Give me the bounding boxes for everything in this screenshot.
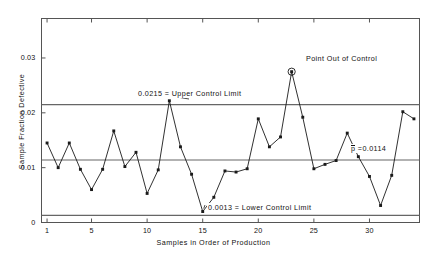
p-bar-symbol: p <box>351 144 355 153</box>
data-point-marker[interactable] <box>379 204 382 207</box>
center-line-annotation-label: p =0.0114 <box>350 144 387 153</box>
x-tick-label: 5 <box>80 226 104 235</box>
data-point-marker[interactable] <box>235 171 238 174</box>
y-axis-title: Sample Fraction Defective <box>17 47 26 197</box>
data-point-marker[interactable] <box>357 155 360 158</box>
data-point-marker[interactable] <box>268 145 271 148</box>
data-point-marker[interactable] <box>201 210 204 213</box>
data-point-marker[interactable] <box>179 145 182 148</box>
x-tick-label: 1 <box>35 226 59 235</box>
x-tick-label: 25 <box>302 226 326 235</box>
data-point-marker[interactable] <box>324 163 327 166</box>
data-point-marker[interactable] <box>79 168 82 171</box>
data-point-marker[interactable] <box>223 170 226 173</box>
x-tick-label: 15 <box>191 226 215 235</box>
y-tick-label: 0.02 <box>4 108 36 117</box>
data-point-marker[interactable] <box>190 173 193 176</box>
x-tick-label: 10 <box>135 226 159 235</box>
data-point-marker[interactable] <box>46 142 49 145</box>
data-point-marker[interactable] <box>135 151 138 154</box>
data-point-marker[interactable] <box>123 165 126 168</box>
data-point-marker[interactable] <box>312 167 315 170</box>
x-tick-label: 20 <box>246 226 270 235</box>
data-point-marker[interactable] <box>257 117 260 120</box>
data-point-marker[interactable] <box>279 136 282 139</box>
data-point-marker[interactable] <box>146 192 149 195</box>
data-point-marker[interactable] <box>246 167 249 170</box>
lcl-annotation-label: 0.0013 = Lower Control Limit <box>207 203 312 212</box>
y-tick-label: 0.03 <box>4 53 36 62</box>
data-point-marker[interactable] <box>101 168 104 171</box>
data-point-marker[interactable] <box>335 159 338 162</box>
data-point-marker[interactable] <box>112 129 115 132</box>
data-point-marker[interactable] <box>390 174 393 177</box>
x-axis-title: Samples in Order of Production <box>0 238 427 247</box>
lcl-leader-line <box>204 205 205 209</box>
p-bar-value: =0.0114 <box>355 144 386 153</box>
data-point-marker[interactable] <box>57 166 60 169</box>
out-of-control-annotation-label: Point Out of Control <box>305 54 378 63</box>
data-point-marker[interactable] <box>401 110 404 113</box>
y-tick-label: 0 <box>4 218 36 227</box>
data-point-marker[interactable] <box>412 117 415 120</box>
y-tick-label: 0.01 <box>4 163 36 172</box>
plot-frame <box>42 19 420 223</box>
data-point-marker[interactable] <box>68 142 71 145</box>
data-point-marker[interactable] <box>90 188 93 191</box>
x-tick-label: 30 <box>357 226 381 235</box>
data-point-marker[interactable] <box>346 132 349 135</box>
chart-plot-area <box>0 0 427 253</box>
data-point-marker[interactable] <box>368 175 371 178</box>
data-point-marker[interactable] <box>212 196 215 199</box>
control-chart: Samples in Order of Production Sample Fr… <box>0 0 427 253</box>
ucl-annotation-label: 0.0215 = Upper Control Limit <box>137 89 242 98</box>
data-point-marker[interactable] <box>290 70 293 73</box>
data-point-marker[interactable] <box>157 168 160 171</box>
data-point-marker[interactable] <box>301 116 304 119</box>
data-point-marker[interactable] <box>168 99 171 102</box>
